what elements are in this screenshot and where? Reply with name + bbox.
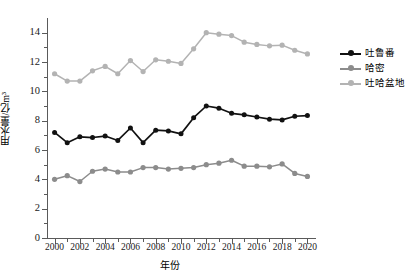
- data-point: [52, 71, 57, 76]
- y-tick-major: [42, 238, 47, 239]
- data-point: [103, 134, 108, 139]
- data-point: [179, 131, 184, 136]
- data-point: [242, 40, 247, 45]
- data-point: [77, 179, 82, 184]
- data-point: [216, 32, 221, 37]
- data-point: [153, 165, 158, 170]
- legend-label: 吐哈盆地: [365, 79, 405, 89]
- legend-label: 吐鲁番: [365, 49, 395, 59]
- y-tick-major: [42, 121, 47, 122]
- series-line: [55, 33, 308, 81]
- data-point: [178, 166, 183, 171]
- data-point: [115, 71, 120, 76]
- data-point: [128, 126, 133, 131]
- data-point: [178, 61, 183, 66]
- data-point: [103, 166, 108, 171]
- chart-figure: 02468101214 2000200220042006200820102012…: [0, 0, 414, 275]
- data-point: [267, 164, 272, 169]
- y-tick-label: 2: [0, 203, 40, 214]
- x-tick-minor: [93, 239, 94, 242]
- y-tick-major: [42, 33, 47, 34]
- y-tick-minor: [44, 47, 47, 48]
- data-point: [140, 165, 145, 170]
- data-point: [191, 115, 196, 120]
- x-tick-minor: [244, 239, 245, 242]
- data-point: [292, 171, 297, 176]
- legend-swatch-icon: [340, 64, 361, 74]
- data-point: [128, 169, 133, 174]
- data-point: [254, 42, 259, 47]
- legend-item[interactable]: 哈密: [340, 61, 414, 76]
- data-point: [141, 140, 146, 145]
- data-point: [77, 78, 82, 83]
- x-tick-minor: [194, 239, 195, 242]
- data-point: [229, 33, 234, 38]
- data-point: [280, 117, 285, 122]
- data-point: [305, 51, 310, 56]
- x-tick-minor: [295, 239, 296, 242]
- data-point: [90, 135, 95, 140]
- data-point: [90, 68, 95, 73]
- data-point: [254, 164, 259, 169]
- data-point: [305, 174, 310, 179]
- data-point: [242, 164, 247, 169]
- y-tick-major: [42, 209, 47, 210]
- y-tick-minor: [44, 194, 47, 195]
- y-axis-title: 用水量/亿m³: [0, 92, 13, 146]
- data-point: [115, 169, 120, 174]
- x-tick-minor: [269, 239, 270, 242]
- series-2: [52, 30, 310, 84]
- series-1: [52, 158, 310, 184]
- data-point: [153, 128, 158, 133]
- y-tick-label: 4: [0, 174, 40, 185]
- chart-canvas: [0, 0, 414, 275]
- x-tick-minor: [143, 239, 144, 242]
- data-point: [204, 162, 209, 167]
- y-tick-major: [42, 179, 47, 180]
- data-point: [267, 117, 272, 122]
- legend-swatch-icon: [340, 49, 361, 59]
- data-point: [229, 111, 234, 116]
- data-point: [292, 114, 297, 119]
- y-tick-major: [42, 150, 47, 151]
- data-point: [52, 177, 57, 182]
- legend-label: 哈密: [365, 64, 385, 74]
- y-axis-line: [47, 18, 48, 239]
- legend-swatch-icon: [340, 79, 361, 89]
- data-point: [229, 158, 234, 163]
- x-tick-minor: [168, 239, 169, 242]
- data-point: [52, 130, 57, 135]
- data-point: [166, 59, 171, 64]
- y-tick-major: [42, 91, 47, 92]
- x-tick-minor: [118, 239, 119, 242]
- y-tick-label: 14: [0, 27, 40, 38]
- x-tick-minor: [67, 239, 68, 242]
- data-point: [65, 78, 70, 83]
- data-point: [65, 173, 70, 178]
- data-point: [216, 106, 221, 111]
- y-tick-label: 6: [0, 145, 40, 156]
- legend-item[interactable]: 吐哈盆地: [340, 76, 414, 91]
- data-point: [305, 113, 310, 118]
- data-point: [65, 140, 70, 145]
- data-point: [128, 58, 133, 63]
- y-tick-minor: [44, 77, 47, 78]
- data-point: [191, 165, 196, 170]
- data-point: [153, 57, 158, 62]
- y-tick-minor: [44, 223, 47, 224]
- data-point: [140, 69, 145, 74]
- x-axis-title: 年份: [160, 257, 180, 272]
- y-tick-minor: [44, 106, 47, 107]
- y-tick-minor: [44, 135, 47, 136]
- data-point: [166, 166, 171, 171]
- y-tick-label: 0: [0, 233, 40, 244]
- data-point: [216, 161, 221, 166]
- legend-item[interactable]: 吐鲁番: [340, 46, 414, 61]
- data-point: [242, 112, 247, 117]
- x-tick-minor: [219, 239, 220, 242]
- data-point: [103, 64, 108, 69]
- data-point: [280, 43, 285, 48]
- data-point: [280, 161, 285, 166]
- y-tick-major: [42, 62, 47, 63]
- x-tick-label: 2020: [287, 243, 327, 253]
